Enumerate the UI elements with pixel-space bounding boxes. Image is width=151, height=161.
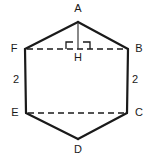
hexagon-drawing-canvas: [0, 0, 151, 161]
vertex-label-A: A: [73, 3, 83, 14]
edge-C-D: [78, 113, 127, 139]
edge-D-E: [26, 113, 78, 139]
hexagon-outline: [25, 22, 128, 139]
length-label-BC: 2: [130, 74, 140, 85]
vertex-label-F: F: [9, 43, 19, 54]
hexagon-figure: A B C D E F H 2 2: [0, 0, 151, 161]
vertex-label-E: E: [10, 107, 20, 118]
vertex-label-H: H: [73, 52, 83, 63]
right-angle-mark-left: [66, 42, 73, 49]
right-angle-mark-right: [83, 42, 90, 49]
vertex-label-C: C: [134, 107, 144, 118]
edge-F-A: [25, 22, 78, 49]
length-label-FE: 2: [11, 74, 21, 85]
vertex-label-D: D: [73, 144, 83, 155]
edge-E-F: [25, 49, 26, 113]
edge-A-B: [78, 22, 128, 49]
edge-B-C: [127, 49, 128, 113]
vertex-label-B: B: [134, 43, 144, 54]
